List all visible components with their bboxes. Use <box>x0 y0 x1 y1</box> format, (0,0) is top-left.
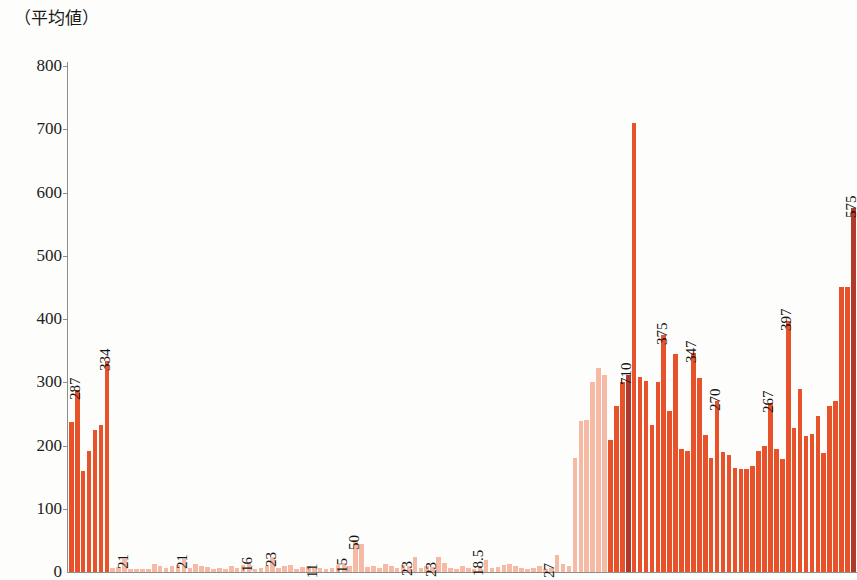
bar <box>798 389 803 572</box>
bar <box>490 568 495 572</box>
bar-value-label: 11 <box>305 564 320 578</box>
bar <box>276 568 281 572</box>
bar <box>93 430 98 572</box>
bar <box>288 565 293 572</box>
bar <box>626 375 631 572</box>
bar-value-label: 287 <box>68 378 83 401</box>
bar <box>650 425 655 572</box>
bar <box>673 354 678 572</box>
bar <box>146 569 151 572</box>
bar <box>638 377 643 572</box>
bar <box>573 458 578 572</box>
bars-layer <box>0 0 857 580</box>
bar-value-label: 267 <box>761 391 776 414</box>
bar <box>193 564 198 572</box>
bar-value-label: 23 <box>264 552 279 567</box>
bar <box>69 422 74 572</box>
bar <box>259 568 264 572</box>
bar <box>105 361 110 572</box>
bar-value-label: 347 <box>684 340 699 363</box>
bar <box>827 406 832 572</box>
bar <box>454 569 459 572</box>
bar <box>282 566 287 572</box>
bar <box>371 566 376 572</box>
bar-value-label: 23 <box>424 562 439 577</box>
chart-root: （平均値） 8007006005004003002001000 28733421… <box>0 0 857 580</box>
bar <box>816 416 821 572</box>
bar <box>567 566 572 572</box>
bar <box>217 568 222 572</box>
bar <box>377 568 382 572</box>
bar <box>99 425 104 572</box>
bar <box>513 566 518 572</box>
bar <box>821 453 826 572</box>
bar <box>596 368 601 572</box>
bar <box>496 567 501 572</box>
bar <box>229 566 234 572</box>
bar <box>448 568 453 572</box>
bar <box>525 569 530 572</box>
bar <box>715 401 720 572</box>
bar <box>602 375 607 572</box>
bar <box>128 569 133 572</box>
bar <box>75 390 80 572</box>
bar <box>750 466 755 572</box>
bar <box>744 469 749 572</box>
bar <box>389 566 394 572</box>
bar <box>839 287 844 572</box>
bar <box>804 436 809 572</box>
plot-area: 8007006005004003002001000 28733421211623… <box>0 0 857 580</box>
bar <box>502 565 507 572</box>
bar <box>756 451 761 572</box>
bar-value-label: 575 <box>844 196 857 219</box>
bar <box>833 401 838 572</box>
bar <box>739 469 744 572</box>
bar <box>709 458 714 572</box>
bar <box>661 335 666 572</box>
bar <box>851 208 856 572</box>
bar <box>620 382 625 572</box>
bar-value-label: 710 <box>619 362 634 385</box>
bar <box>810 434 815 572</box>
bar-value-label: 334 <box>98 348 113 371</box>
bar <box>140 569 145 572</box>
bar-value-label: 397 <box>779 308 794 331</box>
bar <box>134 569 139 572</box>
bar <box>460 566 465 572</box>
bar <box>383 564 388 572</box>
bar <box>442 563 447 572</box>
bar <box>211 569 216 572</box>
bar-value-label: 21 <box>116 554 131 569</box>
bar <box>703 435 708 572</box>
bar <box>667 411 672 572</box>
bar <box>644 381 649 572</box>
bar-value-label: 50 <box>347 535 362 550</box>
bar <box>205 567 210 572</box>
bar <box>81 471 86 572</box>
bar <box>294 569 299 572</box>
bar <box>656 382 661 572</box>
bar <box>561 564 566 572</box>
bar <box>584 420 589 572</box>
bar-value-label: 23 <box>400 561 415 576</box>
bar <box>579 421 584 572</box>
bar <box>152 564 157 572</box>
bar <box>733 468 738 572</box>
bar <box>762 446 767 573</box>
bar-value-label: 18.5 <box>471 550 486 576</box>
bar-value-label: 375 <box>655 322 670 345</box>
bar <box>519 568 524 572</box>
bar <box>164 568 169 572</box>
bar <box>324 569 329 572</box>
bar <box>87 451 92 572</box>
bar <box>679 449 684 572</box>
bar <box>531 568 536 572</box>
bar <box>614 406 619 572</box>
bar <box>780 459 785 572</box>
bar <box>365 567 370 572</box>
bar-value-label: 27 <box>542 563 557 578</box>
bar <box>608 440 613 572</box>
bar <box>632 123 637 572</box>
bar-value-label: 270 <box>708 389 723 412</box>
bar <box>223 569 228 572</box>
